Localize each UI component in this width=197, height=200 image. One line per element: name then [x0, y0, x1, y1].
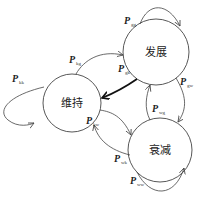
svg-text:gw: gw: [187, 83, 194, 88]
svg-text:ww: ww: [137, 182, 145, 187]
edge-kk: [4, 87, 44, 125]
svg-text:P: P: [118, 63, 125, 74]
edge-ww: [137, 168, 184, 191]
edge-wk: [94, 125, 130, 155]
node-label-develop: 发展: [145, 45, 167, 59]
svg-text:wg: wg: [159, 110, 166, 115]
edge-wg: [146, 85, 150, 120]
svg-text:P: P: [180, 76, 187, 87]
state-transition-diagram: 维持 发展 衰减 P kk P kg P gg P gk P gw: [0, 0, 197, 200]
svg-text:kk: kk: [19, 80, 25, 85]
label-p-kk: P kk: [12, 73, 25, 85]
edge-kg: [76, 54, 123, 74]
svg-text:P: P: [124, 15, 131, 26]
svg-text:gg: gg: [131, 22, 137, 27]
svg-text:P: P: [12, 73, 19, 84]
label-p-wg: P wg: [152, 103, 166, 115]
label-p-kg: P kg: [69, 54, 82, 66]
label-p-gw: P gw: [180, 76, 194, 88]
svg-text:P: P: [130, 175, 137, 186]
label-p-gg: P gg: [124, 15, 137, 27]
node-label-maintain: 维持: [61, 96, 83, 110]
svg-text:gk: gk: [125, 70, 131, 75]
edge-gk: [102, 79, 137, 98]
svg-text:kg: kg: [76, 61, 82, 66]
edge-gg: [140, 8, 180, 26]
svg-text:P: P: [152, 103, 159, 114]
svg-text:kw: kw: [93, 122, 100, 127]
svg-text:P: P: [114, 153, 121, 164]
svg-text:wk: wk: [121, 160, 128, 165]
svg-text:P: P: [86, 115, 93, 126]
label-p-wk: P wk: [114, 153, 128, 165]
svg-text:P: P: [69, 54, 76, 65]
label-p-gk: P gk: [118, 63, 131, 75]
edge-kw: [100, 110, 131, 135]
node-label-decline: 衰减: [149, 143, 171, 157]
